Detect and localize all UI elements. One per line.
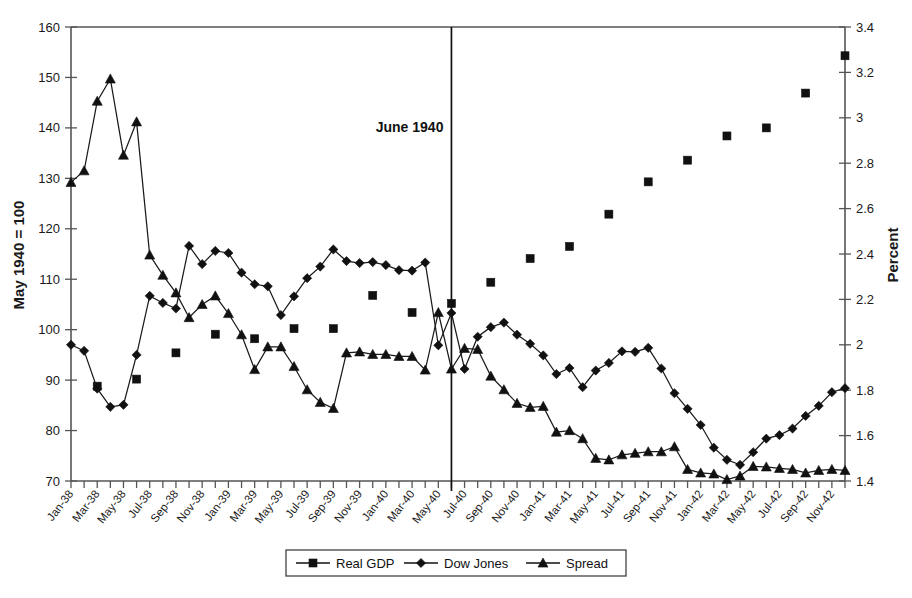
legend-label: Spread [566, 556, 608, 571]
data-point-triangle [486, 371, 496, 380]
right-tick-label: 1.4 [856, 474, 874, 489]
data-point-diamond [657, 364, 666, 373]
data-point-square [408, 309, 416, 317]
right-tick-label: 1.8 [856, 383, 874, 398]
data-point-diamond [158, 298, 167, 307]
data-point-diamond [263, 282, 272, 291]
right-tick-label: 3.2 [856, 65, 874, 80]
data-point-diamond [119, 400, 128, 409]
data-point-triangle [197, 299, 207, 308]
data-point-triangle [591, 453, 601, 462]
data-point-diamond [631, 347, 640, 356]
x-tick-label: May-42 [725, 488, 758, 526]
right-tick-label: 3 [856, 110, 863, 125]
data-point-triangle [460, 343, 470, 352]
data-point-diamond [368, 257, 377, 266]
data-point-triangle [92, 96, 102, 105]
chart-canvas: 708090100110120130140150160 1.41.61.822.… [0, 0, 912, 598]
x-tick-label: Nov-41 [647, 488, 679, 525]
data-point-square [644, 178, 652, 186]
right-tick-label: 3.4 [856, 20, 874, 35]
right-tick-label: 2.6 [856, 201, 874, 216]
data-point-square [526, 255, 534, 263]
data-point-diamond [840, 384, 849, 393]
left-tick-label: 150 [38, 70, 60, 85]
series-spread [66, 74, 850, 484]
right-tick-label: 1.6 [856, 428, 874, 443]
data-point-triangle [683, 464, 693, 473]
data-point-square [802, 89, 810, 97]
data-point-diamond [66, 340, 75, 349]
data-point-square [309, 559, 317, 567]
chart-figure: 708090100110120130140150160 1.41.61.822.… [0, 0, 912, 598]
left-tick-label: 80 [46, 423, 60, 438]
x-axis-labels: Jan-38Mar-38May-38Jul-38Sep-38Nov-38Jan-… [44, 488, 836, 526]
data-point-triangle [250, 365, 260, 374]
left-tick-label: 160 [38, 20, 60, 35]
data-point-diamond [276, 310, 285, 319]
data-point-square [251, 335, 259, 343]
data-point-triangle [210, 291, 220, 300]
data-point-diamond [552, 369, 561, 378]
right-tick-label: 2.4 [856, 247, 874, 262]
data-point-triangle [565, 426, 575, 435]
data-point-diamond [171, 304, 180, 313]
data-point-diamond [381, 260, 390, 269]
data-point-diamond [80, 346, 89, 355]
data-point-triangle [302, 385, 312, 394]
data-point-triangle [237, 330, 247, 339]
data-point-triangle [132, 117, 142, 126]
data-point-diamond [132, 350, 141, 359]
data-point-diamond [394, 266, 403, 275]
left-tick-label: 110 [39, 272, 60, 287]
data-point-triangle [105, 74, 115, 83]
x-tick-label: Nov-38 [174, 488, 206, 525]
data-point-square [841, 52, 849, 60]
right-axis-title: Percent [884, 227, 901, 282]
data-point-square [684, 156, 692, 164]
right-tick-label: 2.8 [856, 156, 874, 171]
data-point-square [487, 278, 495, 286]
data-point-diamond [355, 258, 364, 267]
data-point-diamond [565, 363, 574, 372]
data-point-square [329, 325, 337, 333]
left-tick-label: 140 [38, 120, 60, 135]
x-tick-label: May-39 [252, 488, 285, 526]
data-point-diamond [289, 292, 298, 301]
data-point-square [605, 210, 613, 218]
data-point-square [762, 124, 770, 132]
data-point-triangle [118, 150, 128, 159]
chart-legend: Real GDPDow JonesSpread [286, 550, 626, 576]
left-tick-label: 120 [38, 221, 60, 236]
data-point-triangle [158, 270, 168, 279]
data-point-diamond [224, 248, 233, 257]
data-point-diamond [434, 341, 443, 350]
right-tick-label: 2.2 [856, 292, 874, 307]
data-point-diamond [145, 291, 154, 300]
june-1940-label: June 1940 [376, 119, 444, 135]
data-point-diamond [460, 364, 469, 373]
data-point-diamond [644, 343, 653, 352]
data-point-triangle [145, 250, 155, 259]
data-point-diamond [473, 332, 482, 341]
data-point-triangle [827, 464, 837, 473]
data-point-triangle [289, 361, 299, 370]
data-point-diamond [486, 323, 495, 332]
legend-label: Dow Jones [444, 556, 509, 571]
series-dow-jones [66, 241, 849, 469]
series-real-gdp [93, 52, 849, 390]
data-point-square [369, 291, 377, 299]
left-tick-label: 100 [38, 322, 60, 337]
data-point-triangle [328, 403, 338, 412]
left-axis-title: May 1940 = 100 [10, 201, 27, 310]
left-tick-label: 70 [46, 474, 60, 489]
series-layer [66, 52, 850, 484]
data-point-square [211, 330, 219, 338]
data-point-square [566, 242, 574, 250]
data-point-square [723, 132, 731, 140]
x-tick-label: May-41 [567, 488, 600, 526]
x-tick-label: May-38 [95, 488, 128, 526]
data-point-triangle [735, 471, 745, 480]
annotation-layer: June 1940 [376, 27, 452, 491]
data-point-square [133, 375, 141, 383]
